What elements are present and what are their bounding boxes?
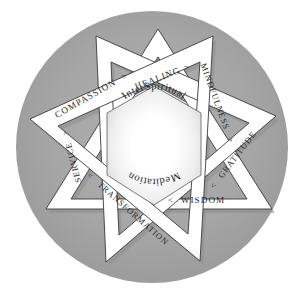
path-label-wisdom-text: WISDOM xyxy=(181,195,226,205)
path-marker-wisdom: < xyxy=(168,195,173,205)
interspiritual-meditation-diagram: InterSpiritual Meditation HEALING > MIND… xyxy=(0,0,305,295)
diagram-canvas: InterSpiritual Meditation HEALING > MIND… xyxy=(0,0,305,295)
